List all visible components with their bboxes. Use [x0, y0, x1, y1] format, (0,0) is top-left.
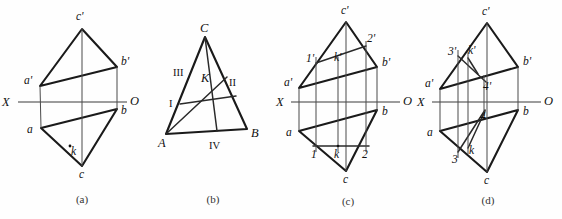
panel-b-label-b: B: [251, 126, 259, 140]
panel-b: C A B K III II I IV: [157, 21, 259, 151]
panel-d-label-three-prime: 3': [447, 45, 457, 57]
panel-a-label-k: k: [71, 145, 77, 157]
panel-a-projector-a: [40, 86, 41, 128]
panel-a-label-c-prime: c': [76, 10, 84, 22]
panel-b-region-label-four: IV: [209, 140, 220, 151]
panel-b-label-c: C: [200, 21, 209, 35]
panel-c-label-k-prime: k': [334, 51, 342, 63]
panel-c-label-c: c: [343, 173, 348, 185]
panel-d-label-a: a: [427, 126, 433, 138]
panel-c-label-b: b: [382, 105, 388, 117]
figure-root: X O c' a' b' a b c k C A: [0, 0, 562, 219]
panel-a-horizontal-triangle: [41, 109, 117, 166]
panel-c-label-one: 1: [311, 148, 317, 160]
panel-d-label-c-prime: c': [482, 5, 490, 17]
panel-d-label-c: c: [484, 174, 489, 186]
panel-c-label-a-prime: a': [284, 76, 293, 88]
panel-c-label-c-prime: c': [341, 4, 349, 16]
panel-a-frontal-triangle: [40, 29, 117, 86]
panel-c-point-k-marker: [337, 145, 340, 148]
panel-b-region-label-two: II: [229, 77, 236, 88]
panel-d-label-b: b: [523, 105, 529, 117]
panel-b-cevian-a-to-region-two: [166, 77, 227, 134]
panel-a-label-a-prime: a': [24, 74, 33, 86]
panel-a: X O c' a' b' a b c k: [1, 10, 139, 180]
panel-c: X O c' a' b' a b c 1' 2' k' 1 2: [275, 4, 412, 185]
panel-c-axis-label-x: X: [275, 95, 285, 109]
panel-d-axis-label-o: O: [544, 94, 553, 108]
panel-b-cevian-region-one-to-side: [180, 96, 236, 104]
panel-d-label-a-prime: a': [425, 77, 434, 89]
panel-a-label-c: c: [79, 168, 84, 180]
panel-d-label-four-prime: 4': [483, 80, 492, 92]
panel-a-axis-label-x: X: [1, 95, 11, 109]
panel-d-label-k-prime: k': [468, 44, 476, 56]
caption-d: (d): [482, 194, 495, 207]
panel-c-label-a: a: [286, 126, 292, 138]
diagram-svg-canvas: X O c' a' b' a b c k C A: [0, 0, 562, 219]
panel-c-label-two: 2: [362, 148, 368, 160]
panel-a-label-b-prime: b': [121, 55, 130, 67]
panel-a-label-a: a: [27, 123, 33, 135]
panel-c-label-one-prime: 1': [306, 52, 315, 64]
panel-d-chord-3prime-4prime: [458, 56, 486, 82]
panel-c-label-b-prime: b': [382, 56, 391, 68]
panel-c-label-two-prime: 2': [367, 32, 376, 44]
panel-d-label-k: k: [469, 144, 475, 156]
panel-d-label-four: 4: [480, 110, 486, 122]
caption-b: (b): [207, 193, 220, 206]
panel-b-region-label-one: I: [169, 98, 173, 109]
panel-b-label-k: K: [200, 71, 210, 85]
panel-c-axis-label-o: O: [403, 94, 412, 108]
panel-d: X O c' a' b' a b c 3' 4' k' 3: [416, 5, 553, 186]
caption-a: (a): [76, 193, 89, 206]
panel-c-label-k: k: [334, 148, 340, 160]
caption-c: (c): [342, 195, 355, 208]
panel-a-axis-label-o: O: [130, 94, 139, 108]
panel-d-axis-label-x: X: [416, 95, 426, 109]
panel-b-region-label-three: III: [173, 67, 184, 78]
panel-b-label-a: A: [157, 136, 166, 150]
caption-row: (a) (b) (c) (d): [76, 193, 495, 208]
panel-d-label-b-prime: b': [523, 55, 532, 67]
panel-a-label-b: b: [121, 104, 127, 116]
panel-d-label-three: 3: [451, 153, 458, 165]
